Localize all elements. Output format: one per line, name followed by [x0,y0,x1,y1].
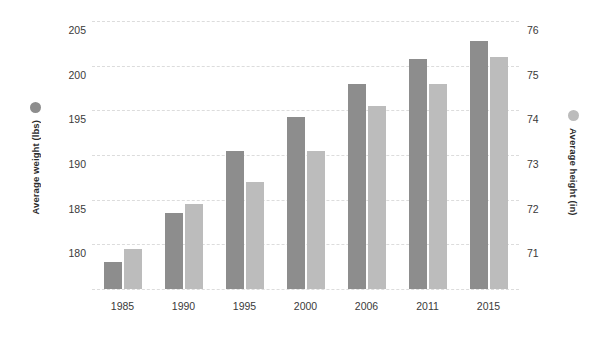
x-axis-tick-label: 2006 [337,300,397,312]
left-axis-title-label: Average weight (lbs) [30,120,41,215]
chart-container: Average weight (lbs) Average height (in)… [0,0,608,339]
left-axis-tick-label: 200 [52,69,86,81]
right-axis-title-label: Average height (in) [568,128,579,216]
x-axis-tick-label: 2000 [276,300,336,312]
legend-dot-weight-icon [30,102,41,113]
bar-weight [470,41,488,289]
bar-height [490,57,508,289]
bar-height [307,151,325,289]
left-axis-tick-label: 195 [52,113,86,125]
right-axis-tick-label: 71 [527,247,553,259]
bar-height [368,106,386,289]
right-axis-tick-label: 72 [527,203,553,215]
bar-group [165,21,203,289]
bar-weight [165,213,183,289]
bar-weight [348,84,366,289]
bar-group [226,21,264,289]
x-axis-tick-label: 1990 [154,300,214,312]
left-axis-tick-label: 205 [52,24,86,36]
bar-weight [104,262,122,289]
right-axis-tick-label: 73 [527,158,553,170]
left-axis-title: Average weight (lbs) [18,78,52,238]
x-axis-tick-label: 2011 [398,300,458,312]
bar-group [348,21,386,289]
left-axis-tick-label: 185 [52,203,86,215]
x-axis-tick-label: 1985 [93,300,153,312]
right-axis-title: Average height (in) [556,78,590,248]
right-axis-tick-label: 76 [527,24,553,36]
left-axis-tick-label: 190 [52,158,86,170]
bar-group [470,21,508,289]
bar-group [104,21,142,289]
bar-weight [409,59,427,289]
bar-group [409,21,447,289]
right-axis-tick-label: 75 [527,69,553,81]
bars-layer [92,21,519,289]
x-axis-tick-labels: 1985199019952000200620112015 [92,300,519,312]
bar-height [185,204,203,289]
x-axis-tick-label: 1995 [215,300,275,312]
bar-weight [226,151,244,289]
bar-height [429,84,447,289]
left-axis-tick-label: 180 [52,247,86,259]
x-axis-tick-label: 2015 [459,300,519,312]
legend-dot-height-icon [568,110,579,121]
bar-weight [287,117,305,289]
gridline [92,289,519,290]
right-axis-tick-label: 74 [527,113,553,125]
bar-height [124,249,142,289]
plot-area [92,21,519,289]
bar-height [246,182,264,289]
bar-group [287,21,325,289]
